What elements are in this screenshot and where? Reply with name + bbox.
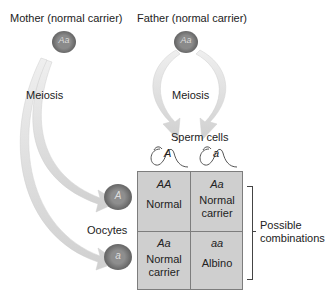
combinations-bracket xyxy=(247,186,253,280)
punnett-cell-aa-het-lower: Aa Normal carrier xyxy=(138,237,190,279)
sperm-cells-label: Sperm cells xyxy=(171,131,228,143)
cell-genotype: Aa xyxy=(138,237,190,250)
cell-phenotype: Normal carrier xyxy=(197,194,237,220)
bracket-tick xyxy=(252,231,256,232)
cell-phenotype: Normal carrier xyxy=(144,253,184,279)
punnett-cell-aa-dominant: AA Normal xyxy=(138,178,190,211)
cell-genotype: Aa xyxy=(191,178,243,191)
oocyte-allele-upper: A xyxy=(104,190,132,201)
cell-genotype: AA xyxy=(138,178,190,191)
oocytes-label: Oocytes xyxy=(87,224,127,236)
sperm-allele-a-upper: A xyxy=(164,147,171,159)
punnett-cell-aa-recessive: aa Albino xyxy=(191,237,243,270)
oocyte-allele-lower: a xyxy=(104,250,132,261)
cell-genotype: aa xyxy=(191,237,243,250)
oocyte-a-lower: a xyxy=(104,244,132,270)
mother-cell: Aa xyxy=(52,31,76,53)
cell-phenotype: Normal xyxy=(138,198,190,211)
sperm-allele-a-lower: a xyxy=(213,147,219,159)
possible-combinations-label: Possible combinations xyxy=(260,219,334,245)
father-cell: Aa xyxy=(174,31,198,53)
punnett-square: AA Normal Aa Normal carrier Aa Normal ca… xyxy=(137,171,243,290)
father-label: Father (normal carrier) xyxy=(137,12,247,24)
punnett-cell-aa-het-upper: Aa Normal carrier xyxy=(191,178,243,220)
mother-meiosis-label: Meiosis xyxy=(26,89,63,101)
father-genotype: Aa xyxy=(174,35,198,45)
grid-divider-horizontal xyxy=(138,231,242,232)
mother-label: Mother (normal carrier) xyxy=(10,12,122,24)
cell-phenotype: Albino xyxy=(191,257,243,270)
mother-genotype: Aa xyxy=(52,35,76,45)
oocyte-a-upper: A xyxy=(104,184,132,210)
father-meiosis-label: Meiosis xyxy=(172,89,209,101)
